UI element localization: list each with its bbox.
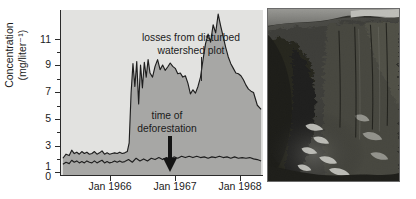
y-tick-label-0: 0 (45, 171, 51, 182)
y-tick-label-7: 7 (45, 86, 51, 97)
annotation-losses-leader-line (201, 57, 202, 81)
deforested-watershed-photo (267, 8, 400, 182)
annotation-losses-line2: watershed plot (125, 45, 257, 58)
y-tick-label-11: 11 (40, 34, 51, 45)
annotation-deforestation-line1: time of (152, 110, 183, 121)
annotation-losses-line1: losses from disturbed (142, 32, 240, 43)
y-axis: 11 9 7 5 3 1 0 (0, 0, 60, 186)
photo-image (268, 9, 399, 181)
y-tick-label-9: 9 (45, 59, 51, 70)
plot-area: losses from disturbed watershed plot tim… (60, 10, 263, 176)
down-arrow-icon (163, 136, 177, 172)
y-tick-label-5: 5 (45, 113, 51, 124)
annotation-deforestation-label: time of deforestation (119, 110, 215, 135)
x-tick-label-jan-1966: Jan 1966 (88, 181, 131, 192)
x-tick-label-jan-1968: Jan 1968 (218, 181, 261, 192)
annotation-losses-label: losses from disturbed watershed plot (125, 32, 257, 57)
y-tick-label-3: 3 (45, 140, 51, 151)
x-tick-label-jan-1967: Jan 1967 (153, 181, 196, 192)
figure-panel-b: Concentration (mg/liter⁻¹) 11 9 7 5 3 1 … (0, 0, 416, 199)
concentration-time-series-chart: Concentration (mg/liter⁻¹) 11 9 7 5 3 1 … (0, 0, 266, 199)
annotation-deforestation-line2: deforestation (119, 123, 215, 136)
